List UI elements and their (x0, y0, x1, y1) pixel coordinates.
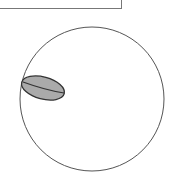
diagram-canvas (0, 0, 179, 193)
